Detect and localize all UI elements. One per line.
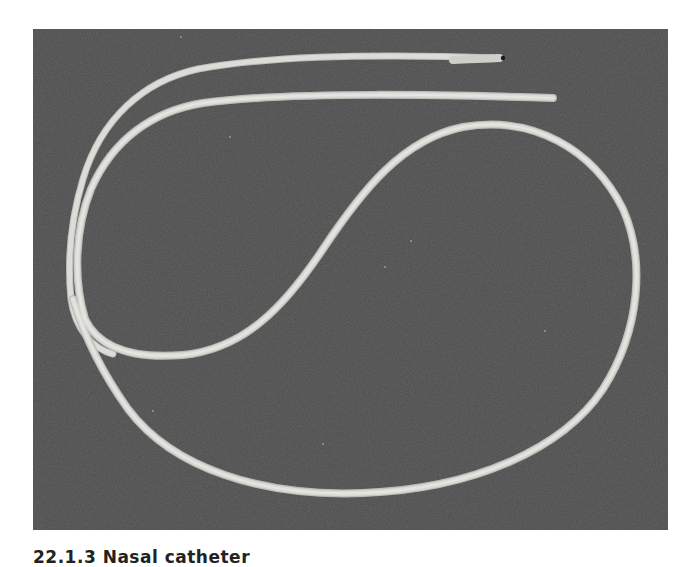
catheter-photo	[33, 29, 668, 530]
catheter-illustration	[33, 29, 668, 530]
figure-caption: 22.1.3 Nasal catheter	[33, 547, 250, 567]
